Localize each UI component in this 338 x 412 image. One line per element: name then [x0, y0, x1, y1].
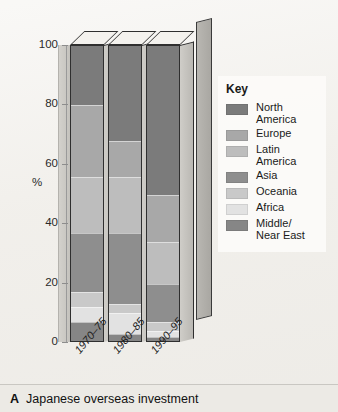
legend-color-swatch: [226, 104, 248, 115]
legend-item: Latin America: [226, 144, 320, 167]
legend-item-label: Africa: [256, 202, 284, 214]
figure-panel: 100806040200 % 1970–751980–851990–95 Key…: [0, 0, 338, 412]
legend-item: Europe: [226, 128, 320, 141]
legend-item: Asia: [226, 170, 320, 183]
bar-front-face: [70, 45, 104, 342]
legend-item: North America: [226, 102, 320, 125]
y-axis-tick-mark: [62, 223, 68, 224]
y-axis-line: [66, 45, 67, 342]
legend-item-label: Asia: [256, 170, 277, 182]
bar-segment: [147, 46, 179, 195]
legend-color-swatch: [226, 204, 248, 215]
y-axis-unit-label: %: [32, 176, 42, 188]
legend-color-swatch: [226, 220, 248, 231]
y-axis-tick-label: 0: [20, 335, 58, 347]
legend-item-label: Latin America: [256, 144, 296, 167]
legend-color-swatch: [226, 130, 248, 141]
bar-segment: [71, 233, 103, 292]
y-axis-tick-label: 40: [20, 216, 58, 228]
bar-segment: [147, 242, 179, 284]
bar-segment: [71, 105, 103, 176]
bar-segment: [71, 177, 103, 233]
legend-item-label: Oceania: [256, 186, 297, 198]
caption-text: Japanese overseas investment: [26, 392, 198, 406]
y-axis-tick-mark: [62, 104, 68, 105]
bar-segment: [71, 46, 103, 105]
legend-item-label: Europe: [256, 128, 291, 140]
y-axis-tick-mark: [62, 164, 68, 165]
y-axis-tick-mark: [62, 283, 68, 284]
legend-item: Africa: [226, 202, 320, 215]
caption-letter: A: [10, 392, 19, 406]
y-axis-tick-mark: [62, 45, 68, 46]
y-axis-tick-label: 80: [20, 97, 58, 109]
stacked-bar: [108, 45, 142, 342]
legend-item: Middle/ Near East: [226, 218, 320, 241]
legend-color-swatch: [226, 146, 248, 157]
stacked-bar: [70, 45, 104, 342]
bar-segment: [71, 292, 103, 307]
legend-color-swatch: [226, 172, 248, 183]
bar-segment: [109, 46, 141, 141]
legend-item: Oceania: [226, 186, 320, 199]
y-axis-tick-label: 20: [20, 276, 58, 288]
y-axis-tick-label: 60: [20, 157, 58, 169]
bar-segment: [147, 195, 179, 243]
figure-caption: A Japanese overseas investment: [0, 384, 338, 412]
legend-color-swatch: [226, 188, 248, 199]
chart-legend: Key North AmericaEuropeLatin AmericaAsia…: [218, 76, 326, 252]
bar-segment: [109, 233, 141, 304]
bar-segment: [109, 177, 141, 233]
stacked-bar: [146, 45, 180, 342]
legend-item-label: Middle/ Near East: [256, 218, 305, 241]
legend-rows: North AmericaEuropeLatin AmericaAsiaOcea…: [226, 102, 320, 241]
chart-back-panel: [196, 18, 212, 320]
legend-title: Key: [226, 82, 320, 96]
y-axis-tick-label: 100: [20, 38, 58, 50]
y-axis-tick-mark: [62, 342, 68, 343]
chart-axis-backing-plate: [58, 45, 70, 342]
legend-item-label: North America: [256, 102, 296, 125]
bar-front-face: [108, 45, 142, 342]
bar-side-face: [180, 42, 194, 342]
bar-front-face: [146, 45, 180, 342]
bar-segment: [109, 141, 141, 177]
bar-segment: [109, 304, 141, 313]
